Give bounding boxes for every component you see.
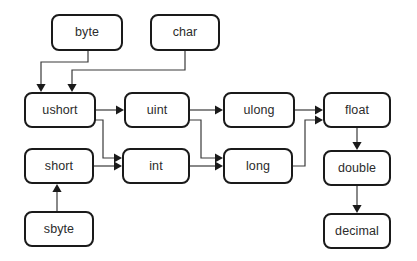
edge-line: [95, 120, 116, 158]
edge-char-ushort: [67, 50, 185, 92]
arrow-head-icon: [215, 153, 223, 162]
node-decimal[interactable]: decimal: [324, 214, 390, 248]
node-label: char: [173, 25, 198, 39]
node-short[interactable]: short: [25, 149, 93, 183]
edge-int-long: [189, 161, 223, 170]
edge-ulong-float: [294, 105, 323, 114]
edge-short-int: [93, 161, 122, 170]
edge-uint-long: [189, 120, 223, 163]
edge-float-double: [352, 127, 361, 150]
diagram-canvas: bytecharushortuintulongfloatshortintlong…: [0, 0, 417, 261]
arrow-head-icon: [114, 153, 122, 162]
node-label: ushort: [42, 103, 78, 117]
edge-double-decimal: [352, 185, 361, 213]
node-double[interactable]: double: [324, 151, 390, 185]
arrow-head-icon: [215, 105, 223, 114]
node-sbyte[interactable]: sbyte: [25, 212, 93, 246]
arrow-head-icon: [67, 84, 76, 92]
arrow-head-icon: [315, 105, 323, 114]
node-label: int: [149, 159, 163, 173]
node-label: double: [338, 161, 376, 175]
node-label: short: [45, 159, 74, 173]
arrow-head-icon: [114, 161, 122, 170]
arrow-head-icon: [352, 142, 361, 150]
arrow-head-icon: [352, 205, 361, 213]
node-label: uint: [147, 103, 168, 117]
node-int[interactable]: int: [123, 149, 189, 183]
edge-uint-ulong: [189, 105, 223, 114]
edge-long-float: [292, 115, 323, 166]
arrow-head-icon: [315, 115, 323, 124]
node-ushort[interactable]: ushort: [25, 93, 95, 127]
node-label: ulong: [243, 103, 274, 117]
node-char[interactable]: char: [151, 15, 219, 50]
edge-layer: [36, 50, 361, 213]
edge-line: [189, 120, 217, 158]
edge-ushort-int: [95, 120, 122, 163]
node-label: decimal: [335, 224, 379, 238]
node-label: sbyte: [44, 222, 74, 236]
node-ulong[interactable]: ulong: [224, 93, 294, 127]
node-long[interactable]: long: [224, 149, 292, 183]
arrow-head-icon: [116, 105, 124, 114]
edge-line: [292, 120, 317, 166]
arrow-head-icon: [52, 184, 61, 192]
type-conversion-diagram: bytecharushortuintulongfloatshortintlong…: [0, 0, 417, 261]
edge-line: [41, 50, 88, 86]
node-float[interactable]: float: [324, 93, 390, 127]
node-label: long: [246, 159, 270, 173]
edge-byte-ushort: [36, 50, 88, 92]
node-layer: bytecharushortuintulongfloatshortintlong…: [25, 15, 390, 248]
node-byte[interactable]: byte: [52, 15, 122, 50]
edge-ushort-uint: [95, 105, 124, 114]
node-label: float: [345, 103, 370, 117]
edge-line: [72, 50, 185, 86]
node-label: byte: [75, 25, 99, 39]
edge-sbyte-short: [52, 184, 61, 212]
arrow-head-icon: [36, 84, 45, 92]
arrow-head-icon: [215, 161, 223, 170]
node-uint[interactable]: uint: [125, 93, 189, 127]
